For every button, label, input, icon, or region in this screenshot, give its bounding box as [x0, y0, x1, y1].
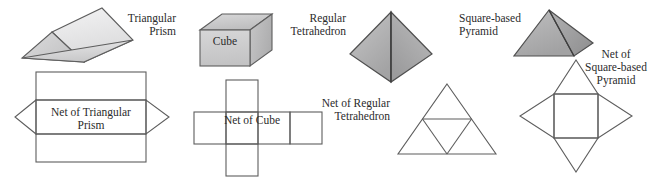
net-of-triangular-prism-label: Net of Triangular Prism [36, 106, 146, 132]
net-tetrahedron-midline-right [447, 119, 472, 154]
net-tetrahedron-midline-left [423, 119, 448, 154]
tetrahedron-left-face [350, 12, 391, 82]
cube-face-label: Cube [200, 35, 250, 48]
net-prism-rect-top [36, 72, 146, 100]
regular-tetrahedron-label: Regular Tetrahedron [284, 12, 346, 38]
regular-tetrahedron-shape [348, 10, 434, 86]
triangular-prism-label: Triangular Prism [100, 12, 176, 38]
net-prism-triangle-right [146, 100, 169, 134]
net-pyramid-triangle-bottom [554, 138, 598, 172]
net-of-cube-label: Net of Cube [194, 114, 310, 127]
geometry-solids-and-nets-figure: Triangular Prism Net of Triangular Prism [0, 0, 659, 180]
net-pyramid-triangle-right [598, 94, 632, 138]
net-prism-rect-bottom [36, 134, 146, 162]
net-cube-square-bottom [226, 144, 258, 176]
net-pyramid-base-square [554, 94, 598, 138]
net-of-square-based-pyramid-label: Net of Square-based Pyramid [574, 48, 658, 87]
net-of-regular-tetrahedron-label: Net of Regular Tetrahedron [306, 97, 390, 123]
net-prism-triangle-left [15, 100, 36, 134]
square-based-pyramid-label: Square-based Pyramid [459, 12, 539, 38]
tetrahedron-right-face [391, 12, 432, 82]
net-of-regular-tetrahedron-shape [396, 82, 500, 166]
net-pyramid-triangle-left [520, 94, 554, 138]
net-cube-square-top [226, 80, 258, 112]
